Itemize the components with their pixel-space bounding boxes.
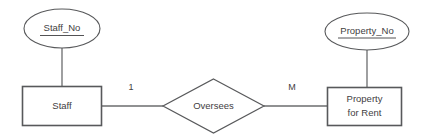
attribute-label-staff-no: Staff_No — [44, 22, 81, 33]
entity-label-property-for-rent-line1: Property — [347, 93, 383, 104]
entity-label-property-for-rent-line2: for Rent — [348, 107, 382, 118]
attribute-label-property-no: Property_No — [340, 25, 393, 36]
relationship-label-oversees: Oversees — [193, 100, 234, 111]
er-diagram-canvas: Staff_No Property_No Staff Property for … — [0, 0, 423, 138]
cardinality-label-one: 1 — [128, 82, 133, 92]
er-diagram-svg: Staff_No Property_No Staff Property for … — [0, 0, 423, 138]
cardinality-label-many: M — [288, 82, 296, 92]
entity-label-staff: Staff — [52, 100, 72, 111]
